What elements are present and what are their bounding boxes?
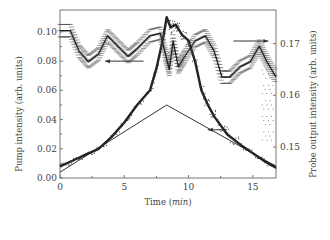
- scatter-point: [108, 141, 109, 142]
- scatter-point: [262, 69, 263, 70]
- scatter-point: [265, 100, 266, 101]
- scatter-point: [271, 163, 272, 164]
- scatter-point: [152, 88, 153, 89]
- scatter-point: [113, 134, 114, 135]
- scatter-point: [266, 140, 267, 141]
- scatter-point: [230, 142, 231, 143]
- scatter-point: [264, 161, 265, 162]
- scatter-point: [199, 87, 200, 88]
- y-right-tick-label: 0.15: [280, 142, 300, 152]
- scatter-point: [206, 101, 207, 102]
- y-right-tick-label: 0.17: [280, 39, 300, 49]
- scatter-point: [173, 24, 174, 25]
- scatter-point: [262, 140, 263, 141]
- scatter-point: [101, 146, 102, 147]
- scatter-point: [255, 155, 256, 156]
- y-left-tick-label: 0.06: [37, 85, 57, 95]
- scatter-point: [68, 164, 69, 165]
- scatter-point: [182, 35, 183, 36]
- scatter-point: [127, 120, 128, 121]
- scatter-point: [129, 118, 130, 119]
- y-left-tick-label: 0.08: [37, 56, 57, 66]
- scatter-point: [128, 119, 129, 120]
- scatter-point: [171, 33, 172, 34]
- y-left-axis-label: Pump intensity (arb. units): [14, 56, 24, 172]
- x-axis-label: Time (min): [144, 197, 191, 207]
- scatter-point: [202, 88, 203, 89]
- scatter-point: [238, 138, 239, 139]
- scatter-point: [82, 159, 83, 160]
- scatter-point: [208, 100, 209, 101]
- scatter-point: [261, 157, 262, 158]
- scatter-point: [265, 162, 266, 163]
- scatter-point: [258, 158, 259, 159]
- arrow-head: [263, 39, 268, 43]
- scatter-point: [94, 151, 95, 152]
- scatter-point: [137, 105, 138, 106]
- scatter-point: [159, 57, 160, 58]
- scatter-point: [241, 145, 242, 146]
- scatter-point: [200, 87, 201, 88]
- scatter-point: [155, 71, 156, 72]
- series-probe-output: [58, 24, 278, 140]
- scatter-point: [270, 78, 271, 79]
- scatter-point: [182, 38, 183, 39]
- scatter-point: [81, 158, 82, 159]
- scatter-point: [154, 82, 155, 83]
- scatter-point: [184, 37, 185, 38]
- scatter-point: [179, 26, 180, 27]
- scatter-point: [168, 20, 169, 21]
- scatter-point: [268, 74, 269, 75]
- scatter-point: [270, 89, 271, 90]
- scatter-point: [259, 157, 260, 158]
- scatter-point: [73, 158, 74, 159]
- scatter-point: [240, 143, 241, 144]
- scatter-point: [211, 109, 212, 110]
- scatter-point: [118, 129, 119, 130]
- scatter-point: [168, 22, 169, 23]
- scatter-point: [96, 147, 97, 148]
- scatter-point: [150, 89, 151, 90]
- scatter-point: [215, 110, 216, 111]
- scatter-point: [180, 36, 181, 37]
- scatter-point: [265, 124, 266, 125]
- scatter-point: [224, 127, 225, 128]
- scatter-point: [153, 73, 154, 74]
- scatter-point: [194, 60, 195, 61]
- scatter-point: [252, 152, 253, 153]
- scatter-point: [273, 166, 274, 167]
- scatter-point: [269, 165, 270, 166]
- scatter-point: [200, 85, 201, 86]
- scatter-point: [211, 117, 212, 118]
- scatter-point: [177, 30, 178, 31]
- scatter-point: [231, 138, 232, 139]
- scatter-point: [177, 23, 178, 24]
- scatter-point: [90, 153, 91, 154]
- y-left-tick-label: 0.04: [37, 115, 57, 125]
- scatter-point: [264, 159, 265, 160]
- scatter-point: [158, 65, 159, 66]
- scatter-point: [263, 85, 264, 86]
- scatter-point: [205, 93, 206, 94]
- scatter-point: [97, 149, 98, 150]
- scatter-point: [60, 164, 61, 165]
- scatter-point: [268, 85, 269, 86]
- scatter-point: [206, 103, 207, 104]
- scatter-point: [103, 146, 104, 147]
- scatter-point: [265, 78, 266, 79]
- scatter-point: [111, 135, 112, 136]
- scatter-point: [84, 156, 85, 157]
- scatter-point: [66, 164, 67, 165]
- scatter-point: [190, 39, 191, 40]
- scatter-point: [251, 149, 252, 150]
- scatter-point: [61, 166, 62, 167]
- scatter-point: [228, 129, 229, 130]
- scatter-point: [273, 74, 274, 75]
- scatter-point: [266, 116, 267, 117]
- scatter-point: [263, 74, 264, 75]
- scatter-point: [158, 61, 159, 62]
- scatter-point: [141, 104, 142, 105]
- scatter-point: [271, 140, 272, 141]
- scatter-point: [271, 105, 272, 106]
- x-tick-label: 15: [247, 182, 259, 192]
